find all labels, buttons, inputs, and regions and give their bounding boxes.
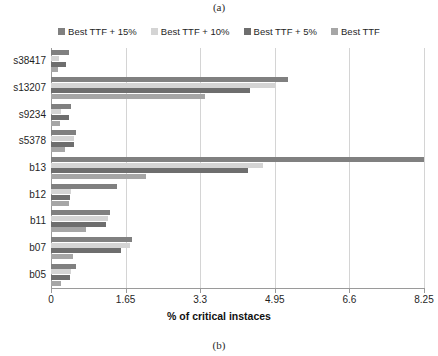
x-tick-label: 8.25 <box>404 294 438 305</box>
legend-item[interactable]: Best TTF + 10% <box>151 26 230 37</box>
legend-item[interactable]: Best TTF <box>331 26 380 37</box>
legend-label: Best TTF + 15% <box>68 26 137 37</box>
figure-caption-a: (a) <box>0 0 438 14</box>
y-axis-category-label: b05 <box>0 269 46 280</box>
figure-caption-b: (b) <box>0 338 438 352</box>
y-axis-category-label: b07 <box>0 242 46 253</box>
x-tick-label: 4.95 <box>255 294 295 305</box>
x-axis-tick <box>424 289 425 293</box>
legend-swatch-icon <box>58 28 65 35</box>
figure-container: (a) Best TTF + 15%Best TTF + 10%Best TTF… <box>0 0 438 356</box>
legend-swatch-icon <box>331 28 338 35</box>
x-axis-tick <box>349 289 350 293</box>
legend-swatch-icon <box>244 28 251 35</box>
legend-label: Best TTF <box>341 26 380 37</box>
y-axis-labels: s38417s13207s9234s5378b13b12b11b07b05 <box>0 48 438 288</box>
y-axis-category-label: s13207 <box>0 82 46 93</box>
x-axis-title: % of critical instaces <box>0 310 438 322</box>
chart-legend: Best TTF + 15%Best TTF + 10%Best TTF + 5… <box>0 22 438 40</box>
x-axis-tick <box>51 289 52 293</box>
legend-label: Best TTF + 5% <box>254 26 317 37</box>
legend-item[interactable]: Best TTF + 15% <box>58 26 137 37</box>
x-tick-label: 1.65 <box>106 294 146 305</box>
x-axis-tick <box>126 289 127 293</box>
y-axis-category-label: b11 <box>0 215 46 226</box>
y-axis-category-label: s5378 <box>0 135 46 146</box>
y-axis-category-label: s9234 <box>0 109 46 120</box>
x-tick-label: 0 <box>31 294 71 305</box>
legend-item[interactable]: Best TTF + 5% <box>244 26 317 37</box>
x-axis-tick <box>200 289 201 293</box>
y-axis-category-label: b12 <box>0 189 46 200</box>
x-tick-label: 6.6 <box>329 294 369 305</box>
legend-label: Best TTF + 10% <box>161 26 230 37</box>
y-axis-category-label: s38417 <box>0 55 46 66</box>
x-axis-line <box>51 288 425 289</box>
x-axis-tick <box>275 289 276 293</box>
y-axis-category-label: b13 <box>0 162 46 173</box>
x-tick-label: 3.3 <box>180 294 220 305</box>
legend-swatch-icon <box>151 28 158 35</box>
